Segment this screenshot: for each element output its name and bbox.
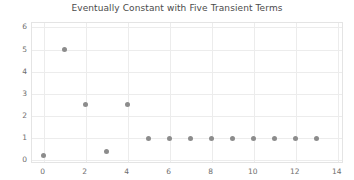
y-tick-label-6: 6 — [3, 22, 27, 31]
gridline-x-14 — [338, 23, 339, 162]
x-tick-label-14: 14 — [325, 167, 349, 176]
data-point — [83, 102, 88, 107]
y-tick-label-3: 3 — [3, 88, 27, 97]
y-tick-label-1: 1 — [3, 133, 27, 142]
gridline-x-12 — [296, 23, 297, 162]
y-tick-label-0: 0 — [3, 155, 27, 164]
x-tick-label-2: 2 — [73, 167, 97, 176]
data-point — [188, 136, 193, 141]
gridline-x-8 — [212, 23, 213, 162]
plot-area — [31, 22, 343, 163]
data-point — [167, 136, 172, 141]
data-point — [293, 136, 298, 141]
gridline-x-2 — [86, 23, 87, 162]
data-point — [146, 136, 151, 141]
chart-title: Eventually Constant with Five Transient … — [0, 3, 354, 13]
data-point — [251, 136, 256, 141]
data-point — [104, 149, 109, 154]
gridline-x-4 — [128, 23, 129, 162]
x-tick-label-4: 4 — [115, 167, 139, 176]
gridline-x-6 — [170, 23, 171, 162]
x-tick-label-10: 10 — [241, 167, 265, 176]
data-point — [314, 136, 319, 141]
x-axis-tick-labels: 02468101214 — [31, 167, 343, 179]
y-tick-label-4: 4 — [3, 66, 27, 75]
x-tick-label-8: 8 — [199, 167, 223, 176]
x-tick-label-6: 6 — [157, 167, 181, 176]
gridline-x-0 — [44, 23, 45, 162]
y-tick-label-2: 2 — [3, 110, 27, 119]
chart-figure: Eventually Constant with Five Transient … — [0, 0, 354, 180]
data-point — [272, 136, 277, 141]
data-point — [230, 136, 235, 141]
x-tick-label-0: 0 — [31, 167, 55, 176]
data-point — [41, 153, 46, 158]
data-point — [209, 136, 214, 141]
gridline-x-10 — [254, 23, 255, 162]
data-point — [125, 102, 130, 107]
y-axis-tick-labels: 0123456 — [0, 22, 27, 163]
x-tick-label-12: 12 — [283, 167, 307, 176]
data-point — [62, 47, 67, 52]
y-tick-label-5: 5 — [3, 44, 27, 53]
